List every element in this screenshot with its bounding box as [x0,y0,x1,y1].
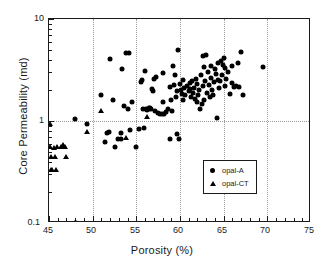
x-axis-minor-tick [101,218,102,221]
x-axis-minor-tick [163,218,164,221]
x-axis-minor-tick [285,218,286,221]
x-axis-minor-tick [171,218,172,221]
y-axis-minor-tick [49,192,52,193]
x-axis-minor-tick [128,218,129,221]
data-point-opal-a [213,71,218,76]
data-point-opal-ct [52,154,58,159]
x-tick-label-45: 45 [33,225,63,235]
data-point-opal-a [240,92,245,97]
x-axis-minor-tick [250,218,251,221]
y-axis-minor-tick [49,42,52,43]
data-point-opal-a [230,64,235,69]
data-point-opal-a [199,102,204,107]
gridline-vertical [93,19,94,221]
y-axis-minor-tick [49,50,52,51]
x-axis-minor-tick [110,218,111,221]
data-point-opal-a [161,99,166,104]
data-point-opal-a [110,97,115,102]
x-tick-label-75: 75 [294,225,324,235]
data-point-opal-a [127,50,132,55]
data-point-opal-a [260,65,265,70]
data-point-opal-ct [98,108,104,113]
x-tick-label-65: 65 [207,225,237,235]
x-axis-tick [224,216,225,221]
y-axis-minor-tick [49,131,52,132]
data-point-opal-a [142,126,147,131]
x-axis-minor-tick [66,218,67,221]
y-axis-minor-tick [49,60,52,61]
data-point-opal-a [150,89,155,94]
y-tick-label-1: 1 [18,115,44,125]
data-point-opal-a [98,93,103,98]
data-point-opal-a [125,107,130,112]
data-point-opal-a [85,122,90,127]
y-axis-minor-tick [49,24,52,25]
x-axis-minor-tick [119,218,120,221]
data-point-opal-a [195,82,200,87]
data-point-opal-a [107,130,112,135]
data-point-opal-a [239,49,244,54]
plot-frame [48,18,310,222]
gridline-vertical [136,19,137,221]
x-tick-label-55: 55 [120,225,150,235]
legend-item-opal-a: opal-A [208,165,251,176]
data-point-opal-a [221,56,226,61]
data-point-opal-ct [123,135,129,140]
data-point-opal-a [206,83,211,88]
data-point-opal-a [196,92,201,97]
data-point-opal-a [172,73,177,78]
data-point-opal-ct [53,167,59,172]
x-axis-tick [267,216,268,221]
x-tick-label-50: 50 [76,225,106,235]
data-point-opal-a [112,144,117,149]
y-tick-label-10: 10 [18,13,44,23]
data-point-opal-a [143,68,148,73]
x-axis-tick [180,216,181,221]
data-point-opal-a [200,53,205,58]
data-point-opal-a [227,91,232,96]
x-axis-minor-tick [259,218,260,221]
data-point-opal-a [102,140,107,145]
x-axis-tick [136,216,137,221]
x-axis-minor-tick [276,218,277,221]
data-point-opal-a [205,69,210,74]
y-axis-minor-tick [49,152,52,153]
chart-legend: opal-A opal-CT [203,160,257,194]
data-point-opal-a [226,70,231,75]
data-point-opal-a [151,76,156,81]
data-point-opal-a [218,79,223,84]
data-point-opal-a [129,100,134,105]
data-point-opal-a [176,47,181,52]
data-point-opal-a [217,86,222,91]
data-point-opal-ct [144,114,150,119]
x-axis-tick [93,216,94,221]
data-point-opal-a [173,95,178,100]
data-point-opal-a [134,144,139,149]
triangle-marker-icon [208,179,218,189]
data-point-opal-a [171,83,176,88]
data-point-opal-a [224,76,229,81]
y-axis-minor-tick [49,90,52,91]
data-point-opal-a [73,116,78,121]
circle-marker-icon [208,166,218,176]
data-point-opal-a [171,64,176,69]
data-point-opal-ct [49,121,53,126]
data-point-opal-a [198,107,203,112]
data-point-opal-ct [72,220,78,221]
x-axis-minor-tick [58,218,59,221]
x-axis-minor-tick [232,218,233,221]
y-axis-tick [49,19,54,20]
legend-label-opal-ct: opal-CT [222,179,249,188]
x-axis-minor-tick [189,218,190,221]
data-point-opal-ct [84,129,90,134]
x-axis-minor-tick [294,218,295,221]
gridline-vertical [267,19,268,221]
x-axis-minor-tick [302,218,303,221]
data-point-opal-a [194,99,199,104]
data-point-opal-a [170,109,175,114]
y-axis-minor-tick [49,174,52,175]
data-point-opal-ct [62,144,68,149]
x-axis-minor-tick [206,218,207,221]
data-point-opal-a [200,84,205,89]
plot-area [49,19,309,221]
